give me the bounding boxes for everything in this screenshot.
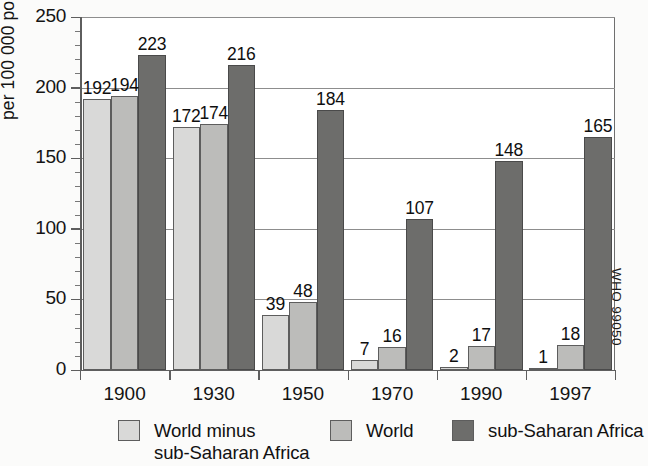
bar xyxy=(138,55,166,370)
bar-value-label: 223 xyxy=(130,34,174,55)
legend-item[interactable]: sub-Saharan Africa xyxy=(452,420,644,442)
y-tick-major xyxy=(71,158,80,160)
bar xyxy=(173,127,201,370)
x-tick xyxy=(258,370,259,380)
legend-label: World minus sub-Saharan Africa xyxy=(154,420,310,464)
bar-value-label: 17 xyxy=(460,325,504,346)
bar-value-label: 16 xyxy=(370,326,414,347)
x-tick xyxy=(169,370,170,380)
x-tick xyxy=(348,370,349,380)
chart-legend: World minus sub-Saharan AfricaWorldsub-S… xyxy=(0,414,648,466)
legend-swatch-icon xyxy=(452,420,474,441)
y-tick-major xyxy=(71,17,80,19)
bar xyxy=(317,110,345,370)
legend-label: World xyxy=(366,420,413,442)
x-tick xyxy=(615,370,616,380)
bar xyxy=(529,368,557,370)
y-axis-title: per 100 000 population xyxy=(0,0,19,120)
bar xyxy=(83,99,111,370)
legend-item[interactable]: World minus sub-Saharan Africa xyxy=(118,420,310,464)
y-tick-major xyxy=(71,299,80,301)
x-tick-label: 1990 xyxy=(437,383,526,405)
x-tick-label: 1997 xyxy=(526,383,615,405)
y-tick-label: 150 xyxy=(8,146,66,168)
x-tick xyxy=(437,370,438,380)
y-tick-label: 0 xyxy=(8,358,66,380)
bar-chart-figure: 050100150200250 190019301950197019901997… xyxy=(0,0,648,466)
x-tick-label: 1950 xyxy=(258,383,347,405)
bar-value-label: 107 xyxy=(398,198,442,219)
x-tick xyxy=(80,370,81,380)
bar-value-label: 48 xyxy=(281,281,325,302)
bar-value-label: 174 xyxy=(192,103,236,124)
x-tick-label: 1930 xyxy=(169,383,258,405)
bar-value-label: 184 xyxy=(309,89,353,110)
bar-value-label: 1 xyxy=(521,347,565,368)
bar xyxy=(440,367,468,370)
bar-value-label: 165 xyxy=(576,116,620,137)
y-tick-label: 50 xyxy=(8,287,66,309)
legend-swatch-icon xyxy=(118,420,140,441)
bar xyxy=(200,124,228,370)
who-source-code: WHO 99050 xyxy=(609,268,624,346)
y-tick-label: 100 xyxy=(8,217,66,239)
bar-value-label: 216 xyxy=(220,44,264,65)
bar-value-label: 148 xyxy=(487,140,531,161)
bar xyxy=(262,315,290,370)
y-tick-major xyxy=(71,370,80,372)
bar-value-label: 2 xyxy=(432,346,476,367)
y-tick-major xyxy=(71,228,80,230)
x-tick xyxy=(526,370,527,380)
legend-item[interactable]: World xyxy=(330,420,413,442)
bar-value-label: 194 xyxy=(103,75,147,96)
legend-label: sub-Saharan Africa xyxy=(488,420,644,442)
bar xyxy=(111,96,139,370)
x-tick-label: 1970 xyxy=(348,383,437,405)
x-tick-label: 1900 xyxy=(80,383,169,405)
bars-layer xyxy=(80,17,615,370)
bar xyxy=(351,360,379,370)
bar-value-label: 18 xyxy=(549,324,593,345)
legend-swatch-icon xyxy=(330,420,352,441)
